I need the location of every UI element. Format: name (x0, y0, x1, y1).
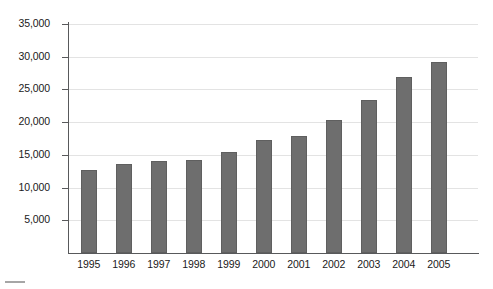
corner-rule (5, 281, 25, 283)
y-axis-tick-label: 5,000 (0, 213, 58, 225)
gridline (68, 89, 478, 90)
bar (221, 152, 237, 253)
y-axis-tick-label: 15,000 (0, 148, 58, 160)
x-axis-tick-label: 2004 (384, 258, 424, 270)
bar (81, 170, 97, 253)
y-axis-labels: 5,00010,00015,00020,00025,00030,00035,00… (0, 0, 58, 289)
x-axis-tick-label: 1996 (104, 258, 144, 270)
x-axis-tick-label: 2001 (279, 258, 319, 270)
x-axis-tick-label: 2005 (419, 258, 459, 270)
x-axis-tick-label: 2000 (244, 258, 284, 270)
x-axis-tick-label: 1995 (69, 258, 109, 270)
y-axis-line (68, 22, 69, 254)
plot-area (68, 20, 478, 253)
y-axis-tick-label: 30,000 (0, 50, 58, 62)
bar (361, 100, 377, 253)
gridline (68, 57, 478, 58)
bar (291, 136, 307, 253)
bar (256, 140, 272, 253)
bar (326, 120, 342, 253)
bar (396, 77, 412, 253)
y-axis-tick-label: 10,000 (0, 181, 58, 193)
y-axis-tick-label: 20,000 (0, 115, 58, 127)
y-axis-tick-label: 25,000 (0, 82, 58, 94)
x-axis-tick-label: 2003 (349, 258, 389, 270)
gridline (68, 122, 478, 123)
bar (151, 161, 167, 253)
gridline (68, 155, 478, 156)
bar-chart: 5,00010,00015,00020,00025,00030,00035,00… (0, 0, 493, 289)
bar (186, 160, 202, 253)
bar (431, 62, 447, 253)
x-axis-tick-label: 1998 (174, 258, 214, 270)
x-axis-tick-label: 2002 (314, 258, 354, 270)
x-axis-tick-label: 1997 (139, 258, 179, 270)
x-axis-line (68, 253, 479, 254)
bar (116, 164, 132, 253)
y-axis-tick-label: 35,000 (0, 17, 58, 29)
x-axis-tick-label: 1999 (209, 258, 249, 270)
gridline (68, 24, 478, 25)
